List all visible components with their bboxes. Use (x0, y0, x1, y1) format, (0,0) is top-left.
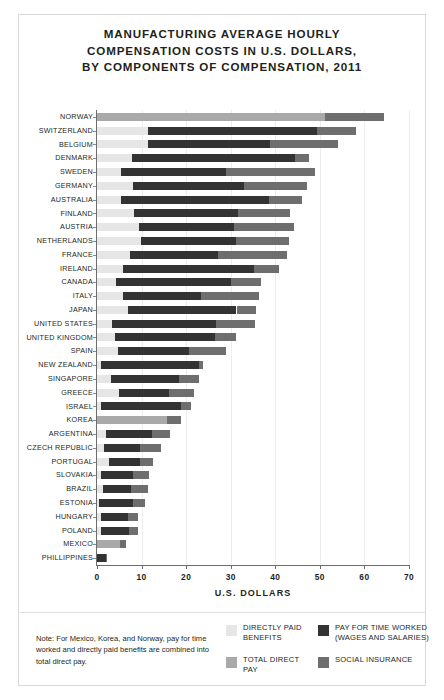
y-tick (93, 144, 96, 145)
y-tick (93, 200, 96, 201)
bar-row[interactable]: ISRAEL (97, 400, 409, 414)
bar-segment-wages (121, 196, 270, 204)
bar-segment-benefits (97, 333, 115, 341)
y-tick (93, 475, 96, 476)
bar-segment-social (169, 389, 194, 397)
bar-row[interactable]: GREECE (97, 386, 409, 400)
category-label: ARGENTINA (0, 427, 93, 441)
bar-row[interactable]: CZECH REPUBLIC (97, 441, 409, 455)
bar-row[interactable]: DENMARK (97, 151, 409, 165)
legend-swatch-direct (226, 657, 237, 668)
bar-segment-wages (133, 182, 244, 190)
bar-row[interactable]: SPAIN (97, 344, 409, 358)
bar-row[interactable]: SWITZERLAND (97, 124, 409, 138)
legend-item[interactable]: SOCIAL INSURANCE (318, 655, 430, 683)
bar-segment-direct (97, 540, 120, 548)
legend-item[interactable]: PAY FOR TIME WORKED (WAGES AND SALARIES) (318, 623, 430, 651)
bar-row[interactable]: PORTUGAL (97, 455, 409, 469)
category-label: SLOVAKIA (0, 468, 93, 482)
y-tick (93, 489, 96, 490)
bar-segment-benefits (97, 251, 130, 259)
bar-chart: NORWAYSWITZERLANDBELGIUMDENMARKSWEDENGER… (0, 0, 444, 700)
bar-row[interactable]: NEW ZEALAND (97, 358, 409, 372)
bar-row[interactable]: JAPAN (97, 303, 409, 317)
y-tick (93, 379, 96, 380)
bar-segment-benefits (97, 389, 119, 397)
bar-row[interactable]: HUNGARY (97, 510, 409, 524)
plot-area: NORWAYSWITZERLANDBELGIUMDENMARKSWEDENGER… (97, 110, 409, 565)
bar-segment-wages (97, 554, 106, 562)
bar-segment-wages (101, 402, 181, 410)
y-tick (93, 172, 96, 173)
bar-row[interactable]: SWEDEN (97, 165, 409, 179)
y-tick (93, 241, 96, 242)
bar-row[interactable]: UNITED KINGDOM (97, 331, 409, 345)
bar-segment-wages (112, 320, 216, 328)
bar-segment-direct (97, 416, 167, 424)
bar-segment-direct (97, 113, 325, 121)
x-axis-label: U.S. DOLLARS (97, 588, 409, 598)
bar-row[interactable]: IRELAND (97, 262, 409, 276)
bar-segment-wages (111, 375, 179, 383)
bar-row[interactable]: SLOVAKIA (97, 468, 409, 482)
bar-row[interactable]: GERMANY (97, 179, 409, 193)
x-axis-line (96, 565, 409, 566)
bar-segment-social (317, 127, 356, 135)
x-tick-label-0: 0 (82, 572, 112, 582)
legend-item[interactable]: DIRECTLY PAID BENEFITS (226, 623, 316, 651)
bar-row[interactable]: BRAZIL (97, 482, 409, 496)
category-label: ISRAEL (0, 400, 93, 414)
bar-segment-social (199, 361, 203, 369)
y-tick (93, 420, 96, 421)
bar-segment-social (237, 306, 256, 314)
category-label: BELGIUM (0, 138, 93, 152)
bar-row[interactable]: MEXICO (97, 537, 409, 551)
bar-segment-wages (101, 513, 127, 521)
bar-segment-social (106, 554, 107, 562)
x-tick-label-30: 30 (216, 572, 246, 582)
bar-row[interactable]: ITALY (97, 289, 409, 303)
bar-row[interactable]: SINGAPORE (97, 372, 409, 386)
bar-segment-benefits (97, 154, 132, 162)
bar-segment-benefits (97, 127, 148, 135)
bar-row[interactable]: POLAND (97, 524, 409, 538)
y-tick (93, 213, 96, 214)
bar-segment-social (234, 223, 294, 231)
bar-row[interactable]: BELGIUM (97, 138, 409, 152)
bar-segment-social (189, 347, 226, 355)
category-label: SPAIN (0, 344, 93, 358)
x-tick-60 (364, 565, 365, 569)
bar-segment-benefits (97, 182, 133, 190)
bar-row[interactable]: ESTONIA (97, 496, 409, 510)
bar-segment-social (152, 430, 170, 438)
bar-segment-social (140, 444, 161, 452)
bar-segment-social (236, 237, 289, 245)
legend-item[interactable]: TOTAL DIRECT PAY (226, 655, 316, 683)
bar-row[interactable]: PHILLIPPINES (97, 551, 409, 565)
bar-segment-social (215, 333, 237, 341)
category-label: FRANCE (0, 248, 93, 262)
bar-row[interactable]: NETHERLANDS (97, 234, 409, 248)
bar-row[interactable]: CANADA (97, 275, 409, 289)
bar-segment-wages (103, 485, 131, 493)
bar-row[interactable]: ARGENTINA (97, 427, 409, 441)
bar-row[interactable]: KOREA (97, 413, 409, 427)
category-label: BRAZIL (0, 482, 93, 496)
bar-segment-wages (99, 499, 133, 507)
bar-row[interactable]: AUSTRIA (97, 220, 409, 234)
bar-segment-wages (132, 154, 295, 162)
bar-row[interactable]: UNITED STATES (97, 317, 409, 331)
bar-segment-benefits (97, 168, 121, 176)
bar-segment-wages (115, 333, 215, 341)
bar-row[interactable]: FINLAND (97, 207, 409, 221)
x-tick-label-70: 70 (394, 572, 424, 582)
bar-row[interactable]: AUSTRALIA (97, 193, 409, 207)
bar-segment-benefits (97, 223, 139, 231)
bar-segment-wages (139, 223, 234, 231)
y-tick (93, 255, 96, 256)
bar-segment-social (128, 513, 138, 521)
bar-segment-wages (109, 458, 141, 466)
bar-row[interactable]: FRANCE (97, 248, 409, 262)
bar-segment-social (216, 320, 256, 328)
bar-row[interactable]: NORWAY (97, 110, 409, 124)
